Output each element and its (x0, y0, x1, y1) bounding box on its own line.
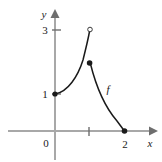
point-filled-0-1 (52, 91, 57, 96)
y-axis-arrowhead (51, 9, 60, 18)
function-label-f: f (106, 83, 111, 95)
y-tick-label-3: 3 (42, 24, 48, 36)
y-tick-label-1: 1 (42, 88, 48, 100)
curve-right-branch (91, 64, 125, 131)
curve-left-branch (55, 32, 90, 95)
x-tick-label-2: 2 (122, 138, 128, 150)
graph-canvas: y x 3 1 0 2 f (0, 0, 162, 162)
x-axis-label: x (147, 137, 153, 149)
origin-label: 0 (43, 137, 49, 149)
function-graph-figure: y x 3 1 0 2 f (0, 0, 162, 162)
x-axis-arrowhead (149, 127, 158, 136)
point-filled-2-0 (122, 128, 128, 134)
y-axis-label: y (41, 8, 47, 20)
point-filled-1-2 (87, 60, 93, 66)
point-open-1-3 (88, 27, 93, 32)
